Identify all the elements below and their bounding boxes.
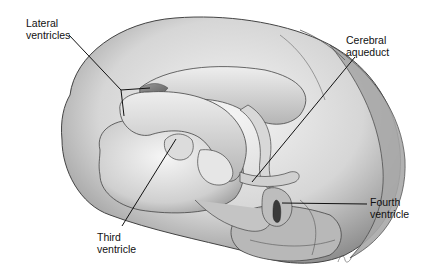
brain-ventricles-illustration: Lateral ventricles Cerebral aqueduct Fou… bbox=[0, 0, 427, 271]
label-third-ventricle: Third ventricle bbox=[97, 231, 136, 255]
label-cerebral-aqueduct: Cerebral aqueduct bbox=[346, 34, 389, 58]
label-fourth-ventricle: Fourth ventricle bbox=[370, 196, 409, 220]
label-lateral-ventricles: Lateral ventricles bbox=[26, 17, 70, 41]
